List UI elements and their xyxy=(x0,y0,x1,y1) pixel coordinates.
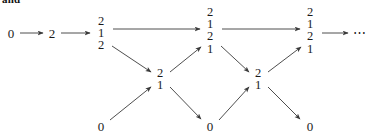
node-b2: 0 xyxy=(307,120,314,133)
edge-b1-to-m1 xyxy=(219,87,249,120)
edge-layer xyxy=(0,0,380,139)
node-m0: 2 1 xyxy=(157,67,163,91)
ellipsis-marker: ⋯ xyxy=(353,25,368,41)
edges-group xyxy=(20,29,348,120)
node-b0: 0 xyxy=(98,120,105,133)
node-n3: 2 1 2 1 xyxy=(207,6,213,55)
node-n1: 2 xyxy=(49,27,56,40)
edge-m0-to-b1 xyxy=(170,87,201,119)
edge-m0-to-n3 xyxy=(170,47,201,72)
edge-n2-to-m0 xyxy=(112,46,151,72)
figure-canvas: and 022 1 22 1 2 12 1 2 12 12 1000 ⋯ xyxy=(0,0,380,139)
edge-n3-to-m1 xyxy=(221,46,249,72)
edge-b0-to-m0 xyxy=(110,87,151,120)
node-n4: 2 1 2 1 xyxy=(307,6,313,55)
edge-m1-to-n4 xyxy=(268,47,301,72)
edge-m1-to-b2 xyxy=(268,87,300,119)
node-b1: 0 xyxy=(207,120,214,133)
node-n0: 0 xyxy=(8,27,15,40)
node-n2: 2 1 2 xyxy=(98,15,104,52)
node-m1: 2 1 xyxy=(255,67,261,91)
